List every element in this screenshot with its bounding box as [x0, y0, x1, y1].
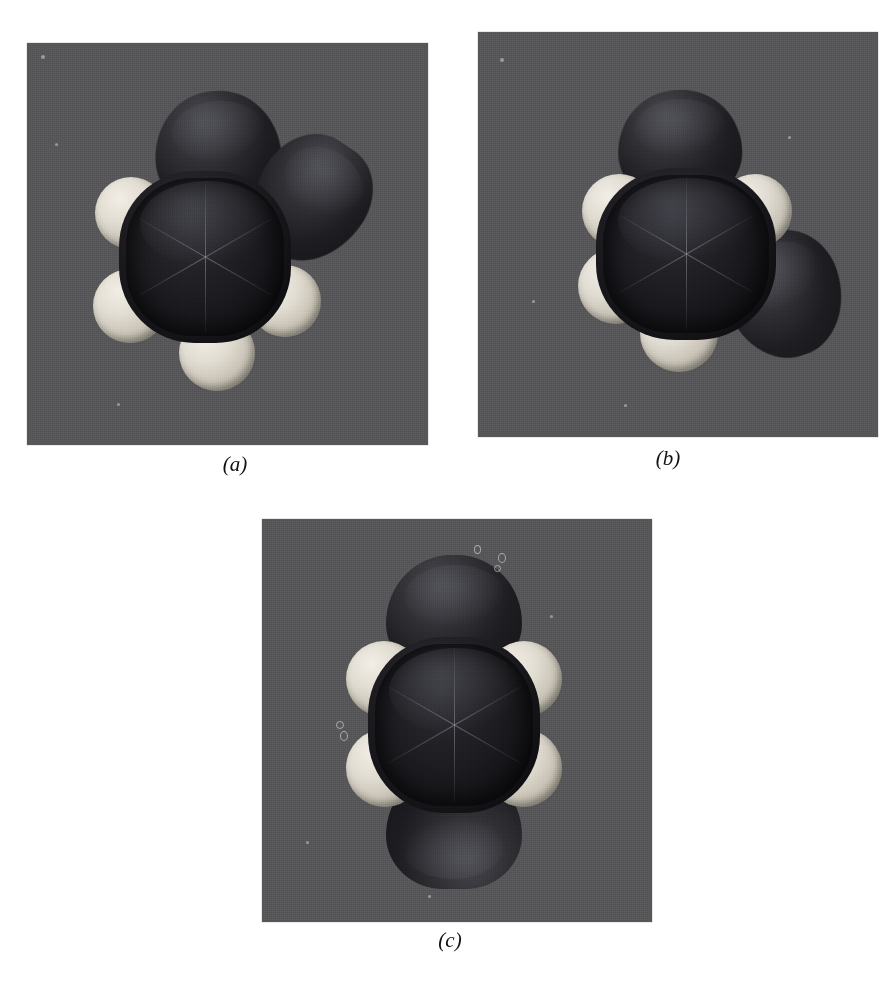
- ring-facet-line: [454, 648, 455, 725]
- film-dust-speck: [340, 731, 348, 741]
- film-dust-speck: [788, 136, 791, 139]
- film-dust-speck: [494, 565, 501, 572]
- film-dust-speck: [117, 403, 120, 406]
- panel-caption-b: (b): [608, 446, 728, 471]
- ring-highlight: [140, 181, 274, 265]
- molecule-model-b: [478, 32, 878, 437]
- film-dust-speck: [428, 895, 431, 898]
- film-dust-speck: [55, 143, 58, 146]
- film-dust-speck: [336, 721, 344, 729]
- panel-caption-c: (c): [390, 928, 510, 953]
- film-dust-speck: [500, 58, 504, 62]
- ring-highlight: [389, 648, 523, 734]
- film-dust-speck: [498, 553, 506, 563]
- ring-facet-line: [205, 257, 206, 333]
- ring-facet-line: [454, 725, 455, 802]
- panel-caption-a: (a): [175, 452, 295, 477]
- film-dust-speck: [550, 615, 553, 618]
- molecule-model-c: [262, 519, 652, 922]
- film-dust-speck: [624, 404, 627, 407]
- ring-facet-line: [205, 181, 206, 257]
- carbon-ring-core: [596, 168, 776, 340]
- film-dust-speck: [41, 55, 45, 59]
- figure-panel-a: [27, 43, 428, 445]
- ring-highlight: [618, 178, 758, 262]
- carbon-ring-core: [119, 171, 291, 343]
- figure-sheet: (a): [0, 0, 888, 989]
- figure-panel-b: [478, 32, 878, 437]
- carbon-ring-core: [368, 637, 540, 813]
- film-dust-speck: [306, 841, 309, 844]
- molecule-model-a: [27, 43, 428, 445]
- ring-facet-line: [686, 254, 687, 330]
- film-dust-speck: [474, 545, 481, 554]
- figure-panel-c: [262, 519, 652, 922]
- film-dust-speck: [532, 300, 535, 303]
- ring-facet-line: [686, 178, 687, 254]
